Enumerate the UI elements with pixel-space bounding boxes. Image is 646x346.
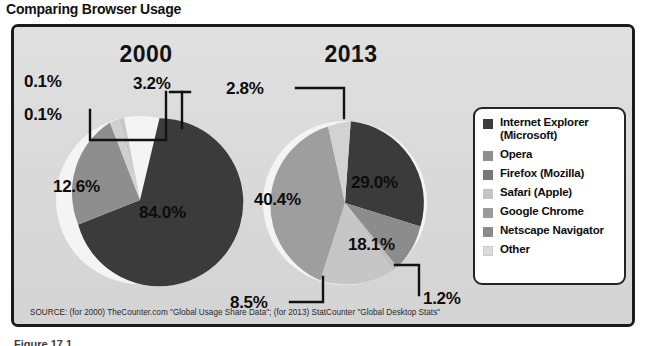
legend-swatch-icon-google-chrome (483, 208, 493, 218)
legend-item-google-chrome[interactable]: Google Chrome (483, 205, 618, 218)
figure-root: Comparing Browser Usage 2000 2013 0.1% 0… (0, 0, 646, 346)
legend-label-google-chrome: Google Chrome (500, 205, 584, 218)
legend-item-other[interactable]: Other (483, 243, 618, 256)
chart-legend: Internet Explorer (Microsoft) Opera Fire… (473, 107, 626, 285)
legend-swatch-icon-safari (483, 189, 493, 199)
callout-2013-ie: 29.0% (351, 173, 398, 193)
legend-label-safari: Safari (Apple) (500, 186, 572, 199)
legend-swatch-icon-firefox (483, 170, 493, 180)
callout-2013-chrome: 40.4% (254, 190, 301, 210)
legend-swatch-icon-internet-explorer (483, 119, 493, 129)
legend-item-internet-explorer[interactable]: Internet Explorer (Microsoft) (483, 116, 618, 142)
legend-swatch-icon-opera (483, 151, 493, 161)
legend-item-netscape-navigator[interactable]: Netscape Navigator (483, 224, 618, 237)
legend-label-other: Other (500, 243, 530, 256)
legend-item-opera[interactable]: Opera (483, 148, 618, 161)
figure-caption: Figure 17.1 (14, 338, 72, 346)
legend-swatch-icon-netscape-navigator (483, 227, 493, 237)
figure-title: Comparing Browser Usage (6, 1, 181, 17)
callout-2013-other: 2.8% (226, 79, 264, 99)
callout-2013-opera: 1.2% (423, 289, 461, 309)
legend-item-safari[interactable]: Safari (Apple) (483, 186, 618, 199)
legend-label-firefox: Firefox (Mozilla) (500, 167, 584, 180)
callout-2013-firefox: 18.1% (348, 235, 395, 255)
legend-label-opera: Opera (500, 148, 532, 161)
legend-item-firefox[interactable]: Firefox (Mozilla) (483, 167, 618, 180)
legend-label-internet-explorer: Internet Explorer (Microsoft) (500, 116, 618, 142)
source-note: SOURCE: (for 2000) TheCounter.com "Globa… (30, 308, 440, 317)
legend-label-netscape-navigator: Netscape Navigator (500, 224, 604, 237)
chart-panel: 2000 2013 0.1% 0.1% 3.2% 12.6% 84.0% (11, 24, 635, 327)
legend-swatch-icon-other (483, 246, 493, 256)
